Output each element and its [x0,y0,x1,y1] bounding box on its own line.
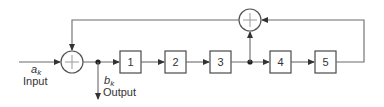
input-adder [61,51,83,73]
delay-stage-3: 3 [210,51,231,73]
feedback-adder [239,9,261,31]
delay-stage-1: 1 [120,51,141,73]
lfsr-block-diagram: 1 2 3 4 5 ak Input bk Output [0,0,384,107]
delay-stage-5: 5 [315,51,336,73]
delay-stage-2: 2 [165,51,186,73]
output-label: Output [103,86,136,98]
delay-stage-4: 4 [270,51,291,73]
svg-text:1: 1 [127,56,133,68]
svg-text:5: 5 [322,56,328,68]
feedback-to-input-adder-line [72,20,239,50]
svg-text:3: 3 [217,56,223,68]
svg-text:4: 4 [277,56,283,68]
input-label: Input [23,75,47,87]
svg-text:2: 2 [172,56,178,68]
